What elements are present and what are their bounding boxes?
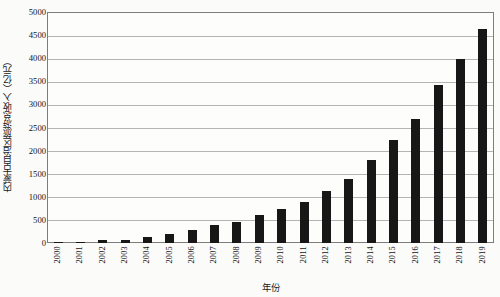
bar — [98, 240, 107, 243]
bar — [478, 29, 487, 243]
y-axis-tick-label: 2500 — [29, 123, 46, 132]
x-axis-tick-label: 2017 — [431, 246, 445, 268]
x-axis-tick-label: 2016 — [409, 246, 423, 268]
x-axis-tick-label-text: 2002 — [99, 246, 107, 264]
bar-series — [47, 12, 494, 243]
x-axis-tick-label-text: 2006 — [188, 246, 196, 264]
y-axis-tick-label: 0 — [42, 239, 46, 248]
y-axis-tick-labels: 0500100015002000250030003500400045005000 — [16, 6, 46, 249]
x-axis-tick-label: 2019 — [476, 246, 490, 268]
bar — [367, 160, 376, 243]
x-axis-tick-label: 2007 — [208, 246, 222, 268]
bar-chart-figure: 内蒙古自治区旅游总收入（亿元） 050010001500200025003000… — [0, 0, 500, 297]
x-axis-tick-label-text: 2005 — [166, 246, 174, 264]
x-axis-tick-label: 2002 — [96, 246, 110, 268]
x-axis-tick-label: 2014 — [364, 246, 378, 268]
bar — [322, 191, 331, 243]
x-axis-tick-label-text: 2013 — [345, 246, 353, 264]
bar — [121, 240, 130, 243]
y-axis-tick-label: 4000 — [29, 54, 46, 63]
y-axis-tick-label: 5000 — [29, 8, 46, 17]
x-axis-tick-label-text: 2001 — [76, 246, 84, 264]
x-axis-tick-label: 2013 — [342, 246, 356, 268]
x-axis-tick-label-text: 2010 — [277, 246, 285, 264]
bar — [143, 237, 152, 243]
x-axis-tick-label-text: 2008 — [233, 246, 241, 264]
x-axis-title: 年份 — [47, 280, 494, 294]
x-axis-tick-label-text: 2019 — [479, 246, 487, 264]
x-axis-tick-label: 2000 — [51, 246, 65, 268]
x-axis-tick-label-text: 2012 — [322, 246, 330, 264]
x-axis-tick-label-text: 2018 — [456, 246, 464, 264]
bar — [188, 230, 197, 243]
y-axis-tick-label: 3500 — [29, 77, 46, 86]
y-axis-tick-label: 4500 — [29, 31, 46, 40]
x-axis-tick-label: 2006 — [185, 246, 199, 268]
x-axis-tick-label: 2003 — [118, 246, 132, 268]
x-axis-tick-label-text: 2014 — [367, 246, 375, 264]
x-axis-tick-label-text: 2015 — [389, 246, 397, 264]
x-axis-tick-label: 2008 — [230, 246, 244, 268]
y-axis-tick-label: 1000 — [29, 193, 46, 202]
x-axis-tick-label-text: 2003 — [121, 246, 129, 264]
x-axis-tick-label: 2010 — [275, 246, 289, 268]
x-axis-tick-label: 2015 — [386, 246, 400, 268]
y-axis-title-text: 内蒙古自治区旅游总收入（亿元） — [4, 57, 13, 192]
x-axis-tick-label: 2012 — [319, 246, 333, 268]
y-axis-tick-label: 1500 — [29, 169, 46, 178]
x-axis-tick-label-text: 2000 — [54, 246, 62, 264]
bar — [165, 234, 174, 243]
bar — [255, 215, 264, 243]
y-axis-tick-label: 3000 — [29, 100, 46, 109]
bar — [300, 202, 309, 243]
x-axis-tick-label-text: 2007 — [210, 246, 218, 264]
x-axis-tick-label-text: 2004 — [143, 246, 151, 264]
bar — [456, 59, 465, 243]
bar — [277, 209, 286, 243]
x-axis-tick-label-text: 2011 — [300, 246, 308, 263]
x-axis-tick-label-text: 2009 — [255, 246, 263, 264]
bar — [434, 85, 443, 243]
bar — [76, 242, 85, 243]
bar — [54, 242, 63, 243]
bar — [232, 222, 241, 243]
x-axis-tick-label-text: 2016 — [412, 246, 420, 264]
x-axis-tick-label: 2001 — [74, 246, 88, 268]
y-axis-tick-label: 500 — [33, 216, 46, 225]
x-axis-tick-label: 2009 — [252, 246, 266, 268]
x-axis-tick-label: 2011 — [297, 246, 311, 267]
x-axis-tick-label: 2004 — [141, 246, 155, 268]
x-axis-tick-labels: 2000200120022003200420052006200720082009… — [47, 246, 494, 278]
bar — [389, 140, 398, 243]
y-axis-tick-label: 2000 — [29, 146, 46, 155]
x-axis-tick-label: 2018 — [453, 246, 467, 268]
x-axis-tick-label-text: 2017 — [434, 246, 442, 264]
bar — [344, 179, 353, 243]
bar — [411, 119, 420, 243]
x-axis-tick-label: 2005 — [163, 246, 177, 268]
bar — [210, 225, 219, 243]
